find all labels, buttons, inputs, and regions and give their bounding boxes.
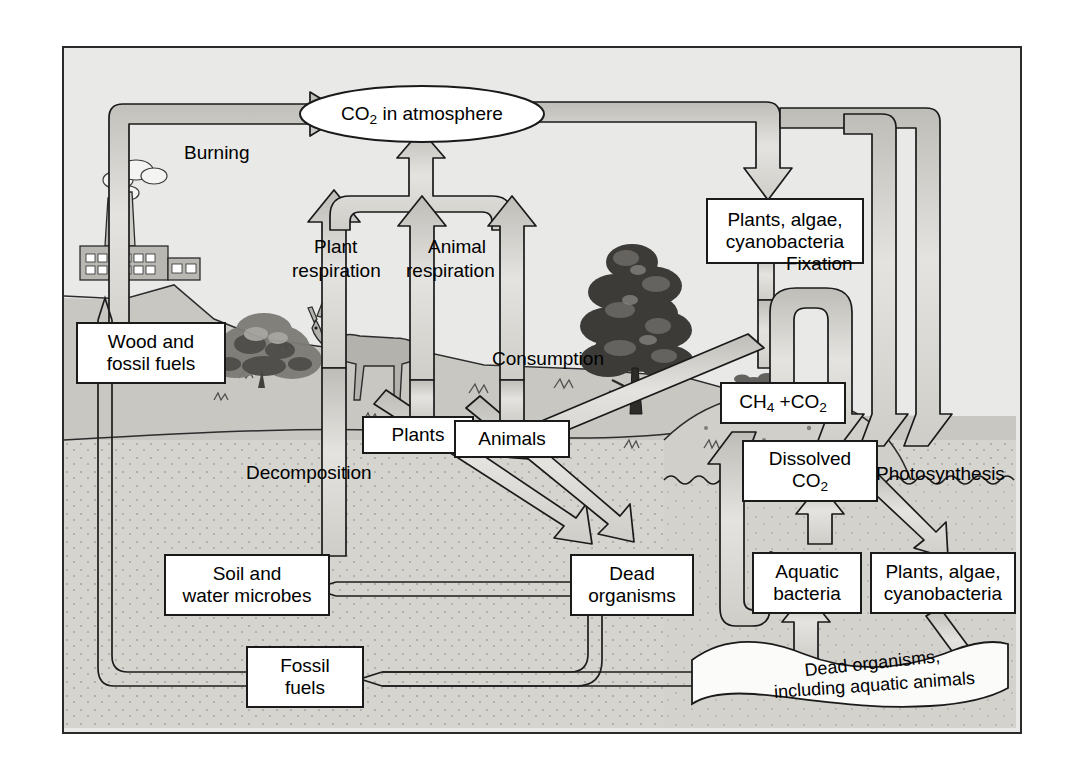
node-dissolved-co2-line1: Dissolved	[744, 448, 876, 470]
node-plants-label: Plants	[392, 424, 445, 446]
label-animal-respiration-line1: Animal	[428, 236, 486, 258]
label-decomposition: Decomposition	[246, 462, 372, 484]
label-burning: Burning	[184, 142, 250, 164]
node-soil-water-microbes-line2: water microbes	[166, 585, 328, 607]
node-co2-atmosphere-label: CO2 in atmosphere	[300, 103, 544, 127]
flow-animals-riser	[500, 380, 524, 422]
label-fixation: Fixation	[786, 253, 853, 275]
label-consumption: Consumption	[492, 348, 604, 370]
node-animals[interactable]: Animals	[454, 420, 570, 458]
node-soil-water-microbes[interactable]: Soil and water microbes	[164, 554, 330, 616]
node-fossil-fuels-line2: fuels	[248, 677, 362, 699]
node-wood-fossil-fuels[interactable]: Wood and fossil fuels	[76, 322, 226, 384]
label-plant-respiration-line1: Plant	[314, 236, 357, 258]
node-aquatic-bacteria-line2: bacteria	[754, 583, 860, 605]
node-aquatic-bacteria[interactable]: Aquatic bacteria	[752, 552, 862, 614]
node-aquatic-producers-line1: Plants, algae,	[872, 561, 1014, 583]
node-terrestrial-producers-line1: Plants, algae,	[708, 209, 862, 231]
node-animals-label: Animals	[478, 428, 546, 450]
node-wood-fossil-fuels-line1: Wood and	[78, 331, 224, 353]
node-soil-water-microbes-line1: Soil and	[166, 563, 328, 585]
node-terrestrial-producers-line2: cyanobacteria	[708, 231, 862, 253]
node-dissolved-co2-line2: CO2	[744, 470, 876, 494]
node-aquatic-producers[interactable]: Plants, algae, cyanobacteria	[870, 552, 1016, 614]
label-photosynthesis: Photosynthesis	[876, 463, 1005, 485]
node-dead-organisms-line1: Dead	[572, 563, 692, 585]
node-wood-fossil-fuels-line2: fossil fuels	[78, 353, 224, 375]
node-aquatic-producers-line2: cyanobacteria	[872, 583, 1014, 605]
node-ch4-co2-label: CH4 +CO2	[739, 391, 827, 415]
node-fossil-fuels[interactable]: Fossil fuels	[246, 646, 364, 708]
flow-plants-riser	[410, 380, 434, 418]
label-animal-respiration-line2: respiration	[406, 260, 495, 282]
label-plant-respiration-line2: respiration	[292, 260, 381, 282]
diagram-frame: CO2 in atmosphere Wood and fossil fuels …	[62, 46, 1022, 734]
node-dead-organisms[interactable]: Dead organisms	[570, 554, 694, 616]
node-ch4-co2[interactable]: CH4 +CO2	[720, 382, 846, 424]
node-dissolved-co2[interactable]: Dissolved CO2	[742, 440, 878, 502]
carbon-cycle-figure-stage: CO2 in atmosphere Wood and fossil fuels …	[0, 0, 1072, 768]
node-dead-organisms-line2: organisms	[572, 585, 692, 607]
node-aquatic-bacteria-line1: Aquatic	[754, 561, 860, 583]
node-fossil-fuels-line1: Fossil	[248, 655, 362, 677]
